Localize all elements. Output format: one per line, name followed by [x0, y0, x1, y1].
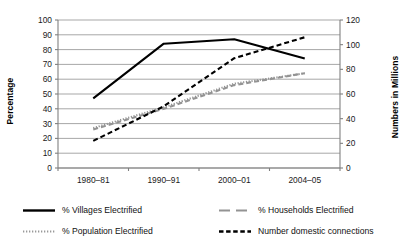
legend-swatch-solid-line [22, 205, 56, 216]
y-axis-left-tick-label: 40 [43, 104, 53, 114]
legend-swatch-dotted-line [22, 226, 56, 237]
y-axis-left-tick-label: 50 [43, 89, 53, 99]
y-axis-left-tick-label: 90 [43, 30, 53, 40]
legend-item-domestic-connections[interactable]: Number domestic connections [218, 221, 394, 242]
y-axis-right-tick-label: 40 [346, 114, 356, 124]
legend-item-population-electrified[interactable]: % Population Electrified [22, 221, 218, 242]
legend-label-villages-electrified: % Villages Electrified [62, 205, 142, 216]
y-axis-left-tick-label: 0 [47, 163, 52, 173]
y-axis-right-tick-label: 80 [346, 64, 356, 74]
legend-item-villages-electrified[interactable]: % Villages Electrified [22, 200, 218, 221]
x-axis-category-labels: 1980–811990–912000–012004–05 [77, 175, 321, 185]
y-axis-left-tick-label: 70 [43, 59, 53, 69]
y-axis-right-tick-label: 100 [346, 40, 360, 50]
plot-area: 0102030405060708090100 020406080100120 1… [0, 0, 404, 200]
y-axis-right-tick-label: 120 [346, 15, 360, 25]
y-axis-left-tick-label: 30 [43, 119, 53, 129]
legend-label-population-electrified: % Population Electrified [62, 226, 153, 237]
line-chart-svg: 0102030405060708090100 020406080100120 1… [0, 0, 404, 200]
y-axis-left-tick-label: 100 [38, 15, 52, 25]
legend-swatch-dashed-line [218, 226, 252, 237]
x-axis-category-label: 2004–05 [288, 175, 321, 185]
x-axis [58, 168, 340, 171]
y-axis-right-tick-label: 0 [346, 163, 351, 173]
y-axis-right-tick-label: 20 [346, 138, 356, 148]
y-axis-left-tick-labels: 0102030405060708090100 [38, 15, 52, 173]
legend-row-2: % Population Electrified Number domestic… [22, 221, 394, 242]
legend-row-1: % Villages Electrified % Households Elec… [22, 200, 394, 221]
x-axis-category-label: 2000–01 [218, 175, 251, 185]
y-axis-left-tick-label: 20 [43, 133, 53, 143]
y-axis-left-tick-label: 60 [43, 74, 53, 84]
legend-label-domestic-connections: Number domestic connections [258, 226, 374, 237]
y-axis-left-tick-label: 10 [43, 148, 53, 158]
legend-item-households-electrified[interactable]: % Households Electrified [218, 200, 394, 221]
y-axis-left [55, 20, 58, 168]
chart-figure: Percentage Numbers in Millions 010203040… [0, 0, 404, 246]
chart-legend: % Villages Electrified % Households Elec… [22, 200, 394, 244]
x-axis-category-label: 1990–91 [147, 175, 180, 185]
legend-label-households-electrified: % Households Electrified [258, 205, 354, 216]
y-axis-right [340, 20, 343, 168]
y-axis-right-tick-label: 60 [346, 89, 356, 99]
y-axis-right-tick-labels: 020406080100120 [346, 15, 360, 173]
x-axis-category-label: 1980–81 [77, 175, 110, 185]
legend-swatch-long-dash-line [218, 205, 252, 216]
y-axis-left-tick-label: 80 [43, 45, 53, 55]
